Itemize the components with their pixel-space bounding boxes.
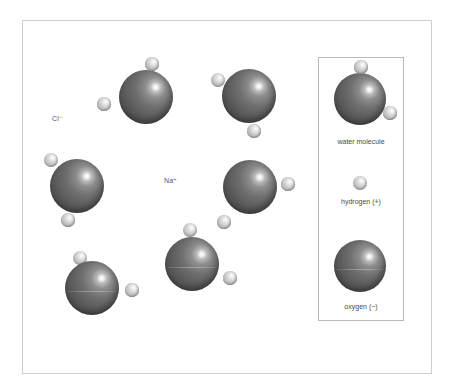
legend-oxygen-label: oxygen (−) xyxy=(318,303,404,310)
water-molecule-diagram: Cl⁻Na⁺ water moleculehydrogen (+)oxygen … xyxy=(0,0,451,389)
oxygen-atom xyxy=(334,240,386,292)
legend-oxygen: oxygen (−) xyxy=(0,0,451,389)
